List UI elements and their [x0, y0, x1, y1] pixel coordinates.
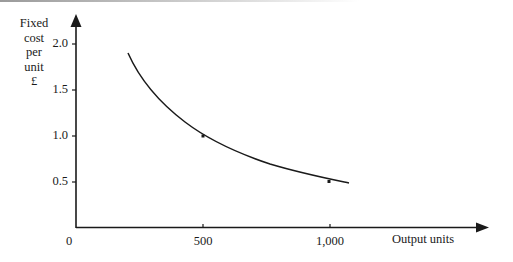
y-tick-label: 2.0	[38, 36, 68, 51]
y-tick-label: 0.5	[38, 174, 68, 189]
x-axis-label: Output units	[392, 232, 454, 247]
data-point-500	[202, 135, 205, 138]
y-axis-label: Fixed cost per unit £	[14, 16, 54, 89]
x-tick-label: 1,000	[310, 234, 350, 249]
y-axis-label-line: Fixed	[14, 16, 54, 31]
origin-label: 0	[66, 234, 72, 249]
chart-canvas	[0, 0, 513, 262]
y-axis-label-line: unit	[14, 60, 54, 75]
fixed-cost-curve	[128, 53, 349, 183]
y-tick-label: 1.0	[38, 128, 68, 143]
x-axis-arrow-icon	[476, 223, 489, 233]
data-point-1000	[328, 180, 331, 183]
y-axis-arrow-icon	[71, 14, 82, 27]
x-tick-label: 500	[183, 234, 223, 249]
y-tick-label: 1.5	[38, 82, 68, 97]
